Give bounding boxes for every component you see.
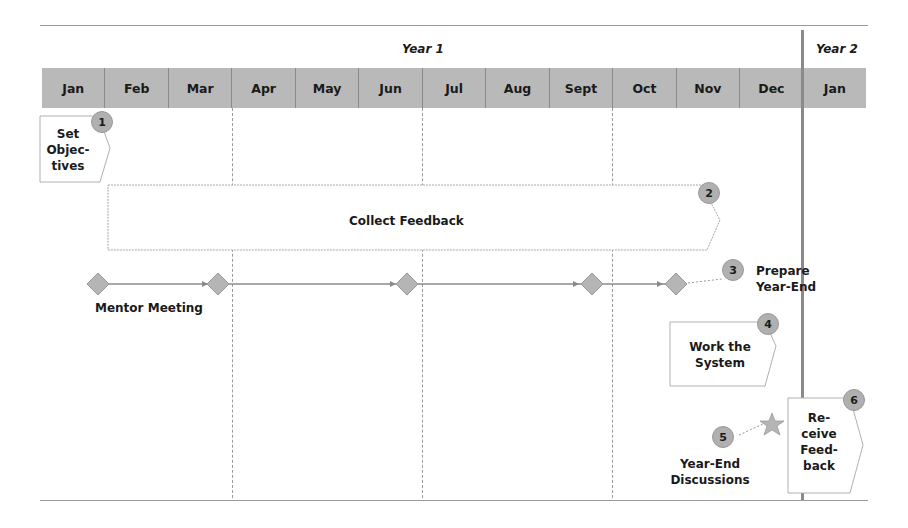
mentor-meeting-label: Mentor Meeting xyxy=(95,300,203,316)
step-badge-3: 3 xyxy=(722,259,744,281)
label-line: System xyxy=(676,355,764,371)
label-line: back xyxy=(794,458,844,474)
label-line: Re- xyxy=(794,410,844,426)
milestone-diamond-jan xyxy=(87,273,109,295)
step-badge-5: 5 xyxy=(712,426,734,448)
work-the-system-label: Work the System xyxy=(676,339,764,371)
collect-feedback-label: Collect Feedback xyxy=(349,213,464,229)
prepare-year-end-label: Prepare Year-End xyxy=(756,263,816,295)
milestone-diamond-mar xyxy=(207,273,229,295)
label-line: Prepare xyxy=(756,263,816,279)
star-icon xyxy=(760,413,784,435)
step-badge-6: 6 xyxy=(843,389,865,411)
year-end-discussions-label: Year-End Discussions xyxy=(660,456,760,488)
label-line: ceive xyxy=(794,426,844,442)
step-badge-4: 4 xyxy=(757,313,779,335)
label-line: Work the xyxy=(676,339,764,355)
label-line: Feed- xyxy=(794,442,844,458)
label-line: Year-End xyxy=(660,456,760,472)
step-badge-2: 2 xyxy=(698,182,720,204)
receive-feedback-label: Re- ceive Feed- back xyxy=(794,410,844,474)
milestone-diamond-sept xyxy=(581,273,603,295)
label-line: Set xyxy=(40,126,96,142)
label-line: Objec- xyxy=(40,142,96,158)
label-line: Discussions xyxy=(660,472,760,488)
label-line: tives xyxy=(40,158,96,174)
milestone-diamond-oct xyxy=(665,273,687,295)
milestone-diamond-jun xyxy=(396,273,418,295)
label-line: Year-End xyxy=(756,279,816,295)
set-objectives-label: Set Objec- tives xyxy=(40,126,96,174)
